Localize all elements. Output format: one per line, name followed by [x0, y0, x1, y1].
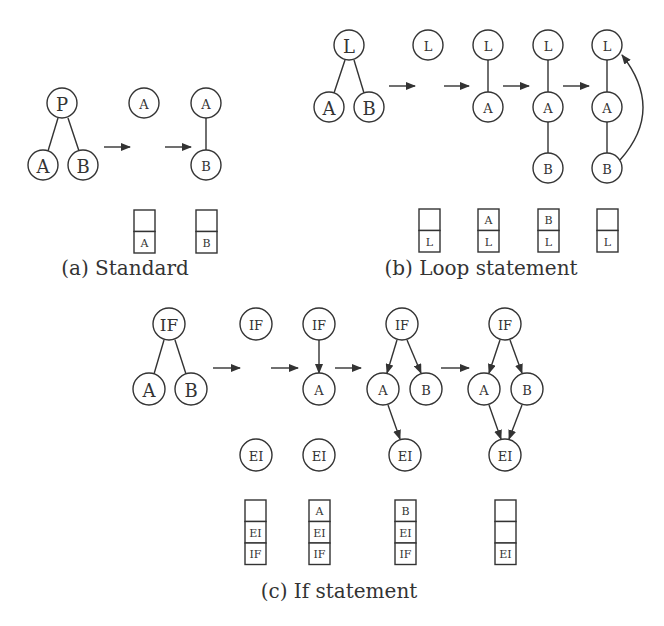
- node-label: A: [138, 97, 149, 112]
- node-label: A: [36, 156, 51, 177]
- stack-cell-label: IF: [400, 548, 412, 561]
- node-if: IF: [489, 308, 521, 340]
- stack-cell-label: A: [140, 237, 150, 250]
- node-label: IF: [160, 315, 179, 335]
- directed-edge: [388, 405, 400, 439]
- node-if: IF: [153, 308, 185, 340]
- stack-cell-label: EI: [399, 527, 411, 540]
- node-a: A: [133, 373, 165, 405]
- node-label: EI: [249, 449, 264, 464]
- node-a: A: [468, 373, 500, 405]
- node-a: A: [473, 92, 503, 122]
- node-a: A: [28, 150, 58, 180]
- node-label: A: [322, 98, 337, 119]
- node-b: B: [533, 153, 563, 183]
- node-label: IF: [312, 318, 326, 333]
- node-label: EI: [312, 449, 327, 464]
- node-ei: EI: [389, 439, 421, 471]
- node-label: B: [421, 383, 431, 398]
- stack-cell: [196, 210, 217, 232]
- node-if: IF: [386, 308, 418, 340]
- panel-caption: (a) Standard: [61, 256, 189, 280]
- stack: L: [419, 209, 440, 252]
- stack-cell: [134, 210, 155, 232]
- node-label: EI: [498, 449, 513, 464]
- panel-caption: (b) Loop statement: [384, 256, 577, 280]
- node-ei: EI: [240, 439, 272, 471]
- loop-back-edge: [620, 55, 643, 160]
- node-label: A: [542, 101, 553, 116]
- panel-b: LABLLALABLABLALBLL(b) Loop statement: [314, 30, 643, 280]
- node-if: IF: [303, 308, 335, 340]
- node-if: IF: [240, 308, 272, 340]
- stack-cell-label: B: [544, 214, 552, 227]
- stack-cell-label: B: [401, 505, 409, 518]
- node-label: L: [343, 36, 355, 57]
- stack-cell-label: EI: [249, 527, 261, 540]
- node-l: L: [473, 30, 503, 60]
- node-b: B: [68, 150, 98, 180]
- node-label: B: [201, 159, 211, 174]
- node-label: EI: [398, 449, 413, 464]
- node-p: P: [47, 88, 77, 118]
- node-label: B: [362, 98, 375, 119]
- tree-edge: [68, 118, 79, 151]
- node-label: A: [313, 383, 324, 398]
- panel-caption: (c) If statement: [261, 579, 418, 603]
- stack-cell-label: EI: [313, 527, 325, 540]
- stack-cell-label: L: [604, 236, 612, 249]
- tree-edge: [154, 340, 164, 374]
- directed-edge: [489, 405, 501, 439]
- directed-edge: [510, 340, 522, 373]
- stack: BEIIF: [395, 500, 416, 565]
- stack-cell-label: L: [426, 236, 434, 249]
- node-b: B: [511, 373, 543, 405]
- tree-edge: [334, 60, 345, 93]
- panel-a: PABAABAB(a) Standard: [28, 88, 221, 280]
- tree-edge: [48, 118, 58, 151]
- node-label: IF: [249, 318, 263, 333]
- stack-cell: [495, 522, 516, 544]
- node-ei: EI: [489, 439, 521, 471]
- panel-c: IFABIFEIIFAEIIFABEIIFABEIEIIFAEIIFBEIIFE…: [133, 308, 543, 603]
- stack: BL: [538, 209, 559, 252]
- node-label: A: [601, 101, 612, 116]
- node-l: L: [533, 30, 563, 60]
- node-l: L: [413, 30, 443, 60]
- panels: PABAABAB(a) StandardLABLLALABLABLALBLL(b…: [28, 30, 643, 603]
- node-b: B: [410, 373, 442, 405]
- stack: AEIIF: [309, 500, 330, 565]
- stack: L: [597, 209, 618, 252]
- diagram-canvas: PABAABAB(a) StandardLABLLALABLABLALBLL(b…: [0, 0, 664, 626]
- tree-edge: [175, 340, 186, 374]
- stack-cell-label: A: [484, 214, 494, 227]
- node-label: A: [200, 97, 211, 112]
- node-ei: EI: [303, 439, 335, 471]
- node-a: A: [592, 92, 622, 122]
- node-b: B: [191, 150, 221, 180]
- node-label: B: [76, 156, 89, 177]
- node-label: B: [522, 383, 532, 398]
- node-a: A: [129, 88, 159, 118]
- node-a: A: [191, 88, 221, 118]
- node-label: B: [602, 162, 612, 177]
- stack-cell: [597, 209, 618, 231]
- stack: EI: [495, 500, 516, 565]
- node-label: B: [543, 162, 553, 177]
- node-b: B: [592, 153, 622, 183]
- stack-cell-label: EI: [499, 548, 511, 561]
- node-a: A: [303, 373, 335, 405]
- stack-cell-label: B: [202, 237, 210, 250]
- node-l: L: [592, 30, 622, 60]
- stack-cell: [495, 500, 516, 522]
- node-l: L: [334, 30, 364, 60]
- directed-edge: [509, 405, 522, 439]
- stack: EIIF: [245, 500, 266, 565]
- stack: AL: [478, 209, 499, 252]
- stack-cell-label: IF: [314, 548, 326, 561]
- node-label: L: [603, 39, 612, 54]
- node-label: A: [482, 101, 493, 116]
- node-b: B: [175, 373, 207, 405]
- directed-edge: [387, 340, 397, 373]
- stack-cell: [245, 500, 266, 522]
